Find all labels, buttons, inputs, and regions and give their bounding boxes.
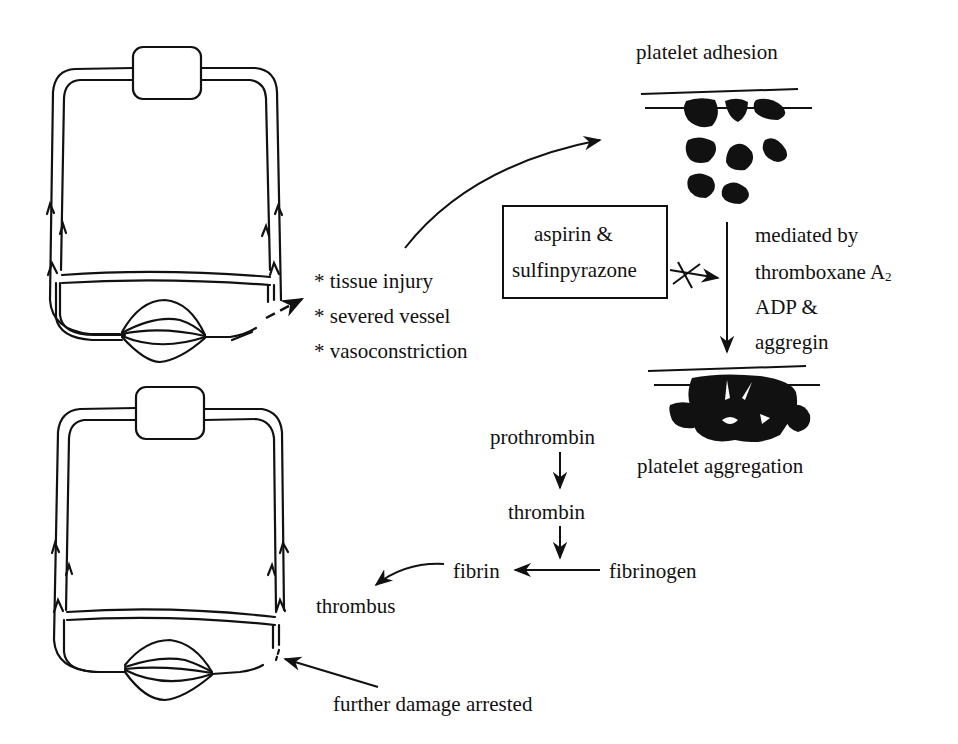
cause-item: * severed vessel (314, 306, 450, 327)
inhibitor-box: aspirin & sulfinpyrazone (502, 205, 668, 299)
thrombin-label: thrombin (508, 502, 585, 523)
prothrombin-label: prothrombin (490, 427, 595, 448)
bullet: * (314, 339, 325, 363)
platelet-aggregation-label: platelet aggregation (637, 456, 803, 477)
circulation-diagram-repaired (52, 387, 288, 700)
heart-icon (133, 47, 201, 99)
diagram-canvas (0, 0, 958, 744)
mediator-line-2: thromboxane A2 (755, 262, 892, 283)
bullet: * (314, 304, 325, 328)
mediator-line-4: aggregin (755, 332, 828, 353)
inhibition-arrow (670, 262, 718, 288)
cause-item: * tissue injury (314, 271, 433, 292)
circulation-diagram-injured (47, 47, 282, 362)
mediator-line-1: mediated by (755, 225, 858, 246)
thrombus-label: thrombus (316, 596, 395, 617)
fibrin-to-thrombus-arrow (376, 564, 444, 585)
bullet: * (314, 269, 325, 293)
inhibitor-line-2: sulfinpyrazone (512, 260, 637, 281)
fibrin-label: fibrin (453, 561, 500, 582)
arrested-arrow (285, 659, 378, 687)
cause-item: * vasoconstriction (314, 341, 467, 362)
platelet-adhesion-illustration (641, 89, 812, 204)
mediator-line-3: ADP & (755, 297, 818, 318)
injury-arrow (266, 299, 302, 318)
fibrinogen-label: fibrinogen (609, 561, 696, 582)
inhibitor-line-1: aspirin & (534, 224, 613, 245)
platelet-adhesion-label: platelet adhesion (636, 42, 778, 63)
platelet-aggregation-illustration (648, 366, 820, 442)
further-damage-arrested-label: further damage arrested (333, 694, 532, 715)
heart-icon (136, 387, 204, 439)
